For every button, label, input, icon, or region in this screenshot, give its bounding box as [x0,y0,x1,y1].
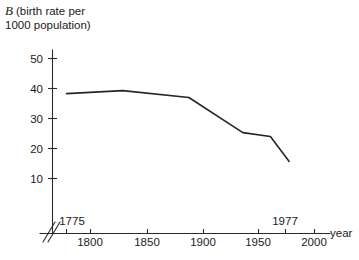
x-tick-label-2000: 2000 [301,236,327,248]
x-tick-label-1775: 1775 [59,215,85,227]
x-tick-label-1900: 1900 [190,236,216,248]
birth-rate-chart: B (birth rate per 1000 population) 50 40… [0,0,359,260]
x-tick-label-1977: 1977 [272,215,298,227]
y-tick-label-30: 30 [30,113,43,125]
y-tick-label-50: 50 [30,53,43,65]
y-axis-symbol: B [5,3,13,18]
y-tick-label-40: 40 [30,83,43,95]
x-tick-label-1950: 1950 [245,236,271,248]
chart-canvas: B (birth rate per 1000 population) 50 40… [0,0,359,260]
axis-break-slash-1 [43,222,55,242]
chart-title: B (birth rate per 1000 population) [5,3,91,31]
x-tick-label-1850: 1850 [134,236,160,248]
y-tick-label-20: 20 [30,143,43,155]
x-tick-label-1800: 1800 [77,236,103,248]
y-axis-caption-line1: (birth rate per [16,5,85,17]
x-axis-label: year [330,227,353,239]
x-axis-endpoint-labels: 1775 1977 [59,215,298,227]
axis-break-slash-2 [48,222,60,242]
axes [40,50,330,242]
birth-rate-series-line [67,91,290,162]
x-axis-tick-labels: 1800 1850 1900 1950 2000 [77,236,327,248]
y-axis-caption-line2: 1000 population) [5,19,91,31]
y-tick-label-10: 10 [30,173,43,185]
